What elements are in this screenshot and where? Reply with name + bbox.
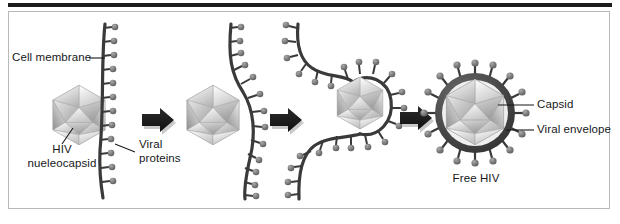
viral-proteins-leader xyxy=(115,144,135,152)
hiv-budding-illustration xyxy=(0,0,620,224)
hiv-budding-figure: Cell membrane HIV nueleocapsid Viral pro… xyxy=(0,0,620,224)
stage-3-capsid xyxy=(337,77,382,129)
stage-3-membrane-wrapping xyxy=(282,22,408,199)
viral-envelope-label: Viral envelope xyxy=(537,123,611,137)
process-arrow-1 xyxy=(142,108,176,135)
stage-1-nucleocapsid-and-membrane xyxy=(53,24,135,198)
stage-1-capsid xyxy=(53,85,105,145)
viral-proteins-label-line1: Viral xyxy=(139,138,162,152)
viral-proteins-label-line2: proteins xyxy=(139,152,181,166)
hiv-nucleocapsid-label-line1: HIV xyxy=(16,143,108,157)
hiv-nucleocapsid-label-line2: nueleocapsid xyxy=(16,157,108,171)
cell-membrane-label: Cell membrane xyxy=(12,51,91,65)
stage-2-capsid xyxy=(187,85,239,145)
process-arrow-2 xyxy=(270,108,304,135)
stage-1-cell-membrane xyxy=(100,24,119,198)
stage-2-membrane-bulging xyxy=(187,24,268,200)
stage-4-free-virion xyxy=(420,59,534,166)
capsid-label: Capsid xyxy=(537,98,573,112)
free-hiv-label: Free HIV xyxy=(430,172,522,186)
